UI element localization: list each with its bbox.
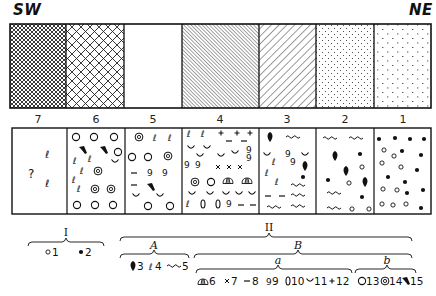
legend-number: 3	[137, 260, 144, 272]
svg-text:9: 9	[290, 157, 296, 167]
legend-number: 8	[252, 275, 259, 287]
column-numbers: 7 6 5 4 3 2 1	[35, 113, 407, 126]
top-column-3	[259, 24, 316, 108]
legend-number: 6	[209, 275, 216, 287]
column-number: 4	[217, 113, 224, 126]
legend-items-part-a: 6 7 8 9 9 10 11 12	[198, 275, 349, 287]
legend-number: 7	[231, 275, 238, 287]
svg-text:ℓ: ℓ	[148, 262, 153, 272]
facies-diagram: 7 6 5 4 3 2 1 ᵧ ? ℓ ℓ ℓℓ	[0, 0, 436, 296]
top-column-1	[374, 24, 431, 108]
legend-number: 15	[410, 275, 423, 287]
top-column-6	[66, 24, 124, 108]
svg-text:ℓ: ℓ	[271, 157, 276, 167]
svg-text:9: 9	[162, 168, 168, 178]
svg-text:ℓ: ℓ	[186, 129, 191, 139]
top-column-7	[10, 24, 66, 108]
svg-text:ℓ: ℓ	[87, 154, 92, 164]
svg-text:ℓ: ℓ	[71, 175, 76, 185]
top-column-4	[182, 24, 259, 108]
column-number: 3	[284, 113, 291, 126]
top-panel	[10, 24, 431, 108]
legend-items-group-i: 1 2	[46, 246, 92, 258]
legend-items-subgroup-a: 3 ℓ 4 5	[131, 260, 189, 272]
legend-group-ii-label: II	[265, 221, 274, 234]
svg-text:ℓ: ℓ	[167, 133, 172, 143]
column-number: 6	[93, 113, 100, 126]
legend-number: 11	[314, 275, 327, 287]
legend-number: 1	[52, 246, 59, 258]
column-number: 1	[400, 113, 407, 126]
top-column-5	[124, 24, 182, 108]
svg-text:ℓ: ℓ	[76, 184, 81, 194]
svg-text:9: 9	[246, 153, 252, 163]
legend-number: 4	[155, 260, 162, 272]
legend-part-a-label: a	[275, 254, 282, 267]
curl-e-symbol: ℓ	[45, 149, 49, 160]
svg-text:ℓ: ℓ	[72, 156, 77, 166]
svg-text:ℓ: ℓ	[152, 133, 157, 143]
legend-number: 13	[366, 275, 379, 287]
legend-number: 9	[272, 275, 279, 287]
svg-text:9: 9	[184, 160, 190, 170]
legend-part-b-label: b	[383, 254, 390, 267]
svg-text:ℓ: ℓ	[185, 199, 190, 209]
curl-e-symbol: ℓ	[45, 178, 49, 189]
legend-number: 14	[389, 275, 403, 287]
column-number: 5	[150, 113, 157, 126]
legend-number: 2	[85, 246, 92, 258]
legend-subgroup-b-label: B	[293, 239, 302, 252]
legend-subgroup-a-label: A	[149, 239, 158, 252]
legend-number: 10	[291, 275, 304, 287]
svg-text:9: 9	[195, 160, 201, 170]
top-column-2	[316, 24, 374, 108]
svg-text:ℓ: ℓ	[79, 166, 84, 176]
column-number: 2	[342, 113, 349, 126]
svg-text:ℓ: ℓ	[200, 129, 205, 139]
legend-number: 5	[182, 260, 189, 272]
legend-group-i-label: I	[64, 226, 68, 239]
legend-labels: I II A B a b	[64, 221, 391, 267]
legend-items-part-b: 13 14 15	[358, 275, 423, 287]
svg-text:9: 9	[147, 168, 153, 178]
svg-text:9: 9	[226, 199, 232, 209]
svg-text:ℓ: ℓ	[274, 177, 279, 187]
column-number: 7	[35, 113, 42, 126]
question-mark: ?	[28, 167, 34, 181]
svg-text:ℓ: ℓ	[264, 168, 269, 178]
legend-number: 12	[336, 275, 349, 287]
